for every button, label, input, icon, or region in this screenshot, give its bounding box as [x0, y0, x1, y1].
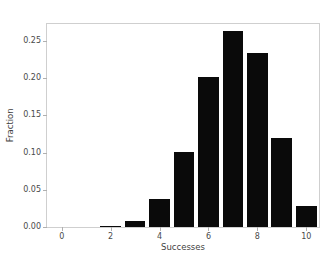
bar	[125, 221, 146, 227]
y-tick-mark	[43, 227, 47, 228]
x-tick-label: 10	[301, 233, 311, 241]
bars-container	[47, 24, 319, 227]
y-tick-mark	[43, 41, 47, 42]
bar	[271, 138, 292, 227]
y-tick-label: 0.25	[23, 37, 41, 45]
y-tick-mark	[43, 115, 47, 116]
y-tick-mark	[43, 78, 47, 79]
bar	[296, 206, 317, 227]
y-tick-label: 0.20	[23, 74, 41, 82]
y-tick-label: 0.05	[23, 186, 41, 194]
x-tick-mark	[160, 227, 161, 231]
x-axis-label-text: Successes	[161, 242, 205, 252]
x-tick-mark	[306, 227, 307, 231]
bar	[198, 77, 219, 227]
x-tick-label: 6	[206, 233, 211, 241]
x-tick-mark	[111, 227, 112, 231]
x-tick-label: 8	[255, 233, 260, 241]
x-tick-mark	[257, 227, 258, 231]
y-tick-mark	[43, 153, 47, 154]
y-tick-label: 0.15	[23, 111, 41, 119]
bar	[223, 31, 244, 227]
x-axis-label: Successes	[46, 243, 320, 252]
bar	[247, 53, 268, 227]
y-axis-label-text: Fraction	[6, 109, 15, 143]
x-tick-label: 4	[157, 233, 162, 241]
x-tick-label: 0	[59, 233, 64, 241]
chart-figure: Fraction 0.000.050.100.150.200.25 024681…	[0, 0, 334, 263]
y-tick-label: 0.00	[23, 223, 41, 231]
x-tick-label: 2	[108, 233, 113, 241]
y-tick-mark	[43, 190, 47, 191]
plot-axes: 0.000.050.100.150.200.25 0246810	[46, 23, 320, 228]
y-axis-label: Fraction	[4, 23, 16, 228]
y-tick-label: 0.10	[23, 149, 41, 157]
x-tick-mark	[208, 227, 209, 231]
bar	[149, 199, 170, 227]
x-tick-mark	[62, 227, 63, 231]
bar	[174, 152, 195, 227]
